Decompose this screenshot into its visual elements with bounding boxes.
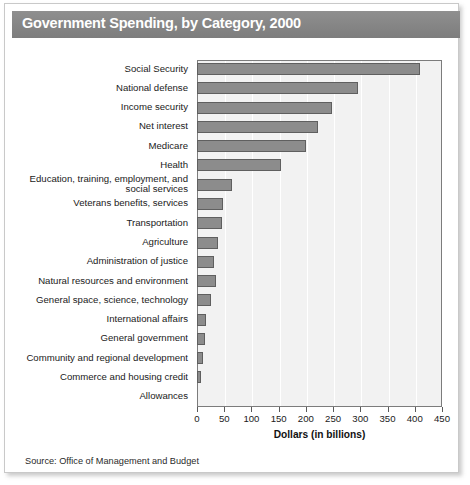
bar-chart: Social SecurityNational defenseIncome se… <box>5 44 460 444</box>
category-label: Social Security <box>5 64 193 74</box>
category-label: General space, science, technology <box>5 295 193 305</box>
bar-row <box>197 330 442 349</box>
category-label: Natural resources and environment <box>5 276 193 286</box>
chart-card: Government Spending, by Category, 2000 S… <box>4 3 459 473</box>
bar-row <box>197 60 442 79</box>
category-label: Medicare <box>5 141 193 151</box>
x-tick-450 <box>442 407 443 412</box>
bar <box>197 159 281 171</box>
category-label: Net interest <box>5 121 193 131</box>
bar-row <box>197 79 442 98</box>
x-tick-200 <box>306 407 307 412</box>
category-label: Commerce and housing credit <box>5 372 193 382</box>
bar <box>197 333 205 345</box>
x-tick-400 <box>415 407 416 412</box>
bar-row <box>197 118 442 137</box>
title-band: Government Spending, by Category, 2000 <box>12 11 460 38</box>
bar <box>197 275 216 287</box>
x-tick-0 <box>197 407 198 412</box>
category-label: Community and regional development <box>5 353 193 363</box>
x-axis-title: Dollars (in billions) <box>197 429 442 440</box>
x-tick-50 <box>224 407 225 412</box>
page-title: Government Spending, by Category, 2000 <box>22 15 301 31</box>
x-tick-100 <box>251 407 252 412</box>
bar <box>197 179 232 191</box>
bar <box>197 198 223 210</box>
bar <box>197 140 306 152</box>
bar-row <box>197 156 442 175</box>
bar-rows <box>197 60 442 407</box>
bar <box>197 371 201 383</box>
source-note: Source: Office of Management and Budget <box>25 456 199 466</box>
bar <box>197 352 203 364</box>
category-label: Veterans benefits, services <box>5 198 193 208</box>
x-tick-350 <box>388 407 389 412</box>
bar <box>197 82 358 94</box>
bar <box>197 121 318 133</box>
bar <box>197 294 211 306</box>
category-label: Allowances <box>5 391 193 401</box>
bar <box>197 237 218 249</box>
bar-row <box>197 368 442 387</box>
bar-row <box>197 234 442 253</box>
bar-row <box>197 176 442 195</box>
x-tick-250 <box>333 407 334 412</box>
bar-row <box>197 137 442 156</box>
category-label: Income security <box>5 102 193 112</box>
bar <box>197 314 206 326</box>
figure-container: Government Spending, by Category, 2000 S… <box>0 0 470 485</box>
bar-row <box>197 272 442 291</box>
category-label: Education, training, employment, andsoci… <box>5 174 193 194</box>
bar-row <box>197 349 442 368</box>
bar-row <box>197 388 442 407</box>
category-label: National defense <box>5 83 193 93</box>
category-axis-labels: Social SecurityNational defenseIncome se… <box>5 60 193 407</box>
bar-row <box>197 99 442 118</box>
bar-row <box>197 253 442 272</box>
category-label: Health <box>5 160 193 170</box>
bar-row <box>197 214 442 233</box>
category-label: Transportation <box>5 218 193 228</box>
category-label: Administration of justice <box>5 256 193 266</box>
bar <box>197 63 420 75</box>
x-tick-label: 450 <box>422 413 462 424</box>
x-tick-300 <box>360 407 361 412</box>
category-label: General government <box>5 333 193 343</box>
category-label: International affairs <box>5 314 193 324</box>
bar <box>197 217 222 229</box>
bar-row <box>197 195 442 214</box>
x-tick-150 <box>279 407 280 412</box>
bar-row <box>197 311 442 330</box>
bar <box>197 256 214 268</box>
category-label: Agriculture <box>5 237 193 247</box>
bar-row <box>197 291 442 310</box>
bar <box>197 102 332 114</box>
